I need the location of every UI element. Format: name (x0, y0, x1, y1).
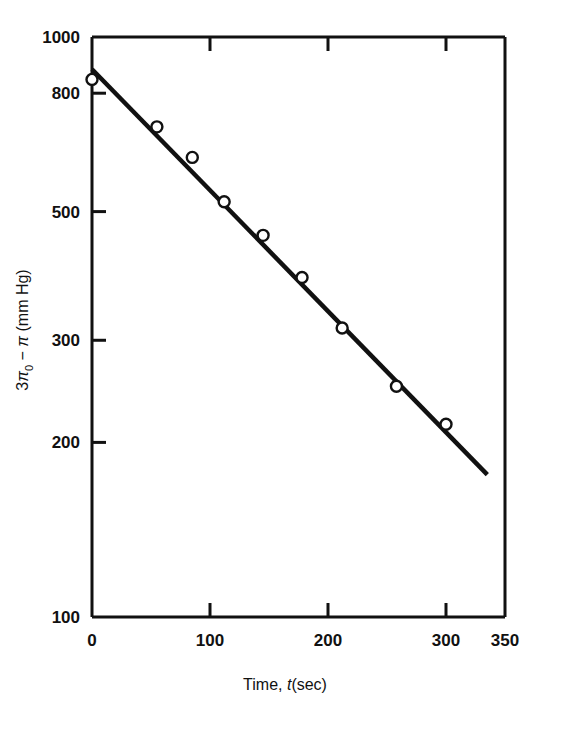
x-axis-ticks (210, 603, 446, 617)
x-axis-top-ticks (210, 37, 446, 51)
data-point (151, 121, 162, 132)
y-tick-label: 300 (52, 331, 80, 350)
x-tick-label: 100 (196, 631, 224, 650)
data-point (297, 272, 308, 283)
data-point (87, 74, 98, 85)
data-point (187, 152, 198, 163)
chart-figure: 1000800500300200100 0100200300350 Time, … (0, 0, 571, 732)
x-tick-label: 300 (432, 631, 460, 650)
data-point (219, 196, 230, 207)
x-tick-label: 0 (87, 631, 96, 650)
data-point (391, 381, 402, 392)
y-tick-label: 500 (52, 203, 80, 222)
y-tick-label: 100 (52, 608, 80, 627)
svg-text:Time, t(sec): Time, t(sec) (243, 676, 327, 693)
data-point (441, 419, 452, 430)
data-point (258, 230, 269, 241)
x-tick-label: 350 (491, 631, 519, 650)
y-tick-label: 1000 (42, 28, 80, 47)
y-axis-title: 3π0 − π (mm Hg) (14, 269, 35, 390)
semilog-chart-svg: 1000800500300200100 0100200300350 Time, … (0, 0, 571, 732)
x-tick-label: 200 (314, 631, 342, 650)
x-axis-tick-labels: 0100200300350 (87, 631, 519, 650)
y-axis-ticks (92, 93, 106, 442)
y-axis-tick-labels: 1000800500300200100 (42, 28, 80, 627)
data-point (337, 322, 348, 333)
y-tick-label: 800 (52, 84, 80, 103)
y-tick-label: 200 (52, 433, 80, 452)
series-group (87, 69, 488, 474)
svg-text:3π0 − π (mm Hg): 3π0 − π (mm Hg) (14, 269, 35, 390)
x-axis-title: Time, t(sec) (243, 676, 327, 693)
